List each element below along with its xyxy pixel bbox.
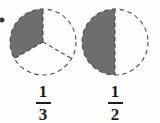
divider-one-third-lower-right <box>43 42 72 59</box>
fraction-numerator: 1 <box>98 83 132 101</box>
figure-graphics <box>0 0 160 123</box>
fraction-denominator: 2 <box>98 106 132 123</box>
fraction-bar <box>36 102 51 104</box>
shaded-sector-one-half <box>82 9 115 75</box>
fraction-circles-svg <box>0 0 160 123</box>
fraction-figure-canvas: 1 3 1 2 <box>0 0 160 123</box>
bullet-dot-icon <box>0 18 5 23</box>
fraction-label-one-third: 1 3 <box>26 83 60 123</box>
fraction-circle-one-third <box>10 9 76 75</box>
fraction-circle-one-half <box>82 9 148 75</box>
fraction-numerator: 1 <box>26 83 60 101</box>
fraction-label-one-half: 1 2 <box>98 83 132 123</box>
shaded-sector-one-third <box>10 9 43 59</box>
fraction-bar <box>108 102 123 104</box>
fraction-denominator: 3 <box>26 106 60 123</box>
